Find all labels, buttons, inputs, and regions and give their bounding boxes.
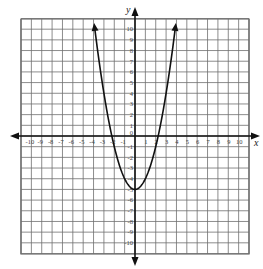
y-tick-label: -10	[124, 239, 133, 246]
y-tick-label: -8	[128, 218, 133, 225]
axes	[10, 7, 260, 266]
y-tick-label: 9	[130, 36, 133, 43]
x-tick-label: -5	[79, 138, 84, 145]
x-tick-label: 3	[165, 138, 168, 145]
y-axis-up-arrow-icon	[132, 7, 139, 16]
y-tick-label: 10	[127, 25, 134, 32]
y-axis-label: y	[125, 4, 131, 15]
y-tick-label: 8	[130, 47, 133, 54]
y-tick-label: -6	[128, 196, 134, 203]
y-tick-label: -1	[128, 143, 133, 150]
x-tick-label: 6	[196, 138, 200, 145]
x-tick-label: -1	[120, 138, 125, 145]
x-tick-label: 9	[227, 138, 230, 145]
y-tick-label: 3	[130, 100, 133, 107]
y-tick-label: 0	[130, 129, 133, 136]
y-tick-label: -3	[128, 164, 133, 171]
x-tick-label: 4	[175, 138, 179, 145]
y-tick-label: 5	[130, 79, 133, 86]
x-axis-label: x	[253, 137, 259, 148]
x-tick-label: -3	[100, 138, 105, 145]
x-tick-label: -6	[69, 138, 75, 145]
y-tick-label: -9	[128, 228, 133, 235]
x-tick-label: 8	[217, 138, 220, 145]
curve-left-arrow-icon	[92, 23, 99, 31]
curve-right-arrow-icon	[171, 23, 178, 31]
y-axis-down-arrow-icon	[132, 257, 139, 266]
x-tick-label: 10	[236, 138, 243, 145]
x-axis-left-arrow-icon	[10, 133, 19, 140]
x-tick-label: -9	[38, 138, 43, 145]
x-tick-label: -4	[89, 138, 95, 145]
coordinate-plane: -10-9-8-7-6-5-4-3-2-11234567891010987654…	[0, 0, 263, 269]
x-tick-label: 1	[144, 138, 147, 145]
x-tick-label: -7	[58, 138, 64, 145]
y-tick-label: -7	[128, 207, 134, 214]
y-tick-label: 2	[130, 111, 133, 118]
x-tick-label: -10	[26, 138, 35, 145]
x-tick-label: -8	[48, 138, 53, 145]
x-tick-label: 5	[186, 138, 189, 145]
y-tick-label: -2	[128, 154, 133, 161]
x-tick-label: 7	[206, 138, 210, 145]
y-tick-label: -4	[128, 175, 134, 182]
